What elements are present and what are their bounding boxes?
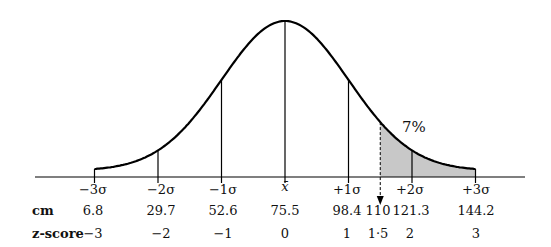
cm-value: 144.2 <box>457 203 494 218</box>
sigma-label-plus1: +1σ <box>333 182 361 197</box>
z-value: 0 <box>281 226 289 241</box>
z-value: −3 <box>83 226 102 241</box>
cm-value: 29.7 <box>147 203 176 218</box>
sigma-label-minus2: −2σ <box>147 182 175 197</box>
cm-value-marker: 110 <box>366 203 391 218</box>
z-value: −2 <box>151 226 170 241</box>
z-value-marker: 1·5 <box>368 226 389 241</box>
cm-value: 6.8 <box>83 203 104 218</box>
shaded-area-percent: 7% <box>402 118 426 136</box>
cm-value: 98.4 <box>333 203 362 218</box>
cm-value: 75.5 <box>271 203 300 218</box>
cm-value: 52.6 <box>209 203 238 218</box>
cm-row-label: cm <box>32 203 54 218</box>
sigma-label-minus3: −3σ <box>79 182 107 197</box>
z-value: 2 <box>406 226 414 241</box>
sigma-label-plus3: +3σ <box>462 182 490 197</box>
mean-label: x̄ <box>281 179 288 194</box>
z-value: −1 <box>213 226 232 241</box>
z-value: 3 <box>472 226 480 241</box>
shaded-tail-area <box>380 122 475 177</box>
z-value: 1 <box>343 226 351 241</box>
cm-value: 121.3 <box>392 203 429 218</box>
sigma-label-plus2: +2σ <box>396 182 424 197</box>
sigma-label-minus1: −1σ <box>209 182 237 197</box>
z-score-row-label: z-score <box>32 226 84 241</box>
